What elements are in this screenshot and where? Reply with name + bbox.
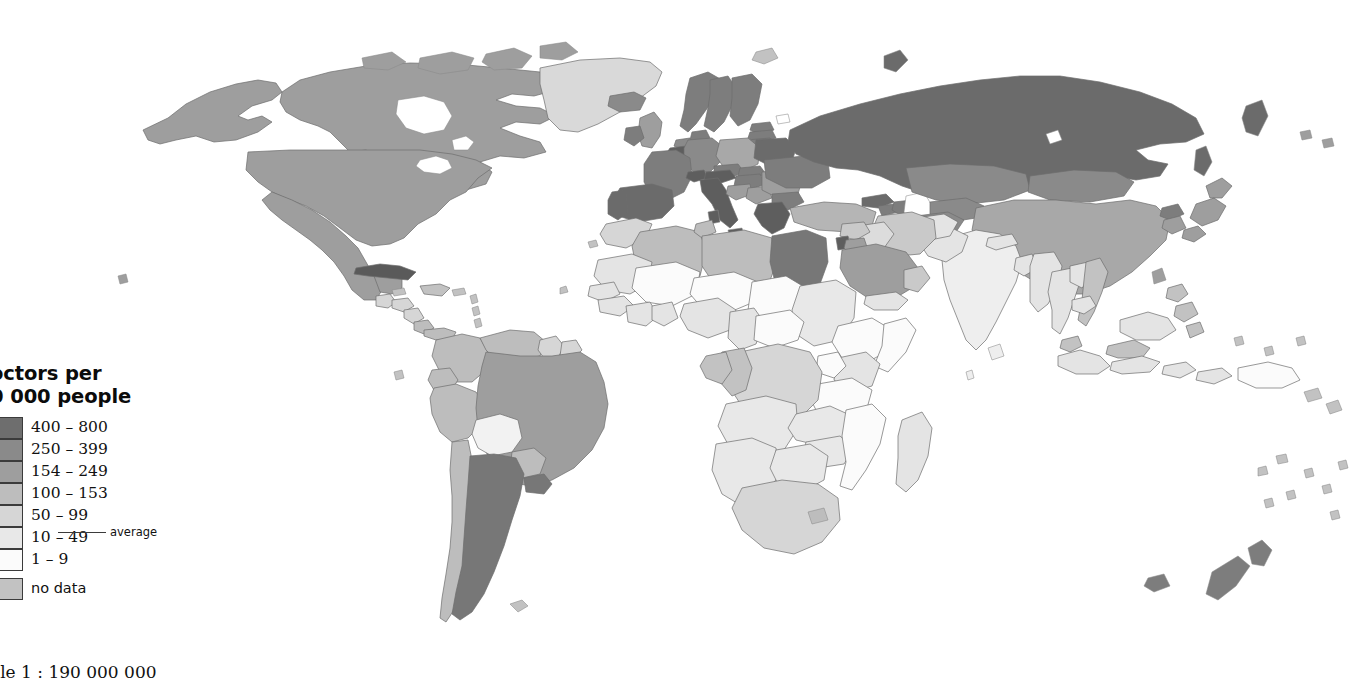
legend-item-10-49[interactable]: 10 – 49: [0, 527, 230, 549]
legend-label: 50 – 99: [31, 505, 88, 526]
legend-swatch: [0, 549, 23, 571]
legend-swatch: [0, 505, 23, 527]
legend-swatch: [0, 527, 23, 549]
country-central-african-republic: [754, 310, 804, 348]
island-puerto-rico: [452, 288, 466, 296]
legend-swatch: [0, 439, 23, 461]
island-hawaii: [118, 274, 128, 284]
legend-class-list: 400 – 800 250 – 399 154 – 249 100 – 153 …: [0, 417, 230, 600]
legend-label: 400 – 800: [31, 417, 108, 438]
island-new-zealand: [1206, 540, 1272, 600]
lake-ladoga: [776, 114, 790, 124]
country-mongolia: [1028, 170, 1134, 202]
country-japan: [1182, 178, 1232, 242]
country-finland: [730, 74, 762, 126]
island-falklands: [510, 600, 528, 612]
legend-label: no data: [31, 578, 86, 599]
legend-item-400-800[interactable]: 400 – 800: [0, 417, 230, 439]
country-nigeria: [680, 298, 736, 338]
legend-title: octors per 0 000 people: [0, 362, 190, 408]
country-ghana: [652, 302, 678, 326]
legend-swatch: [0, 461, 23, 483]
island-svalbard: [752, 48, 778, 64]
region-taiwan: [1152, 268, 1166, 284]
legend-label: 250 – 399: [31, 439, 108, 460]
island-maldives: [966, 370, 974, 380]
island-galapagos: [394, 370, 404, 380]
island-tasmania: [1144, 574, 1170, 592]
country-mali: [632, 262, 700, 306]
country-haiti-dominican-republic: [420, 284, 450, 296]
country-united-states: [143, 80, 282, 144]
country-papua-new-guinea: [1238, 362, 1300, 388]
legend-label: 10 – 49: [31, 527, 88, 548]
island-novaya-zemlya: [884, 50, 908, 72]
legend-swatch: [0, 417, 23, 439]
country-madagascar: [896, 412, 932, 492]
map-legend: octors per 0 000 people 400 – 800 250 – …: [0, 362, 230, 600]
legend-item-no-data[interactable]: no data: [0, 578, 230, 600]
legend-swatch: [0, 578, 23, 600]
legend-title-line1: octors per: [0, 362, 190, 385]
legend-item-50-99[interactable]: 50 – 99: [0, 505, 230, 527]
island-micronesia: [1234, 336, 1306, 356]
country-oman: [904, 266, 930, 292]
region-south-america: [428, 330, 608, 622]
country-greece: [754, 202, 790, 234]
map-scale-text: ale 1 : 190 000 000: [0, 662, 157, 682]
island-kamchatka: [1242, 100, 1268, 136]
legend-item-250-399[interactable]: 250 – 399: [0, 439, 230, 461]
country-sri-lanka: [988, 344, 1004, 360]
lesser-antilles: [470, 294, 482, 328]
legend-label: 100 – 153: [31, 483, 108, 504]
island-cape-verde: [560, 286, 568, 294]
country-indonesia: [1058, 350, 1232, 384]
legend-title-line2: 0 000 people: [0, 385, 190, 408]
island-aleutian: [1300, 130, 1334, 148]
island-pacific-group: [1258, 454, 1348, 508]
legend-swatch: [0, 483, 23, 505]
legend-item-1-9[interactable]: 1 – 9: [0, 549, 230, 571]
country-indonesia: [1120, 312, 1176, 340]
country-mozambique: [840, 404, 886, 490]
island-fiji: [1330, 510, 1340, 520]
legend-label: 154 – 249: [31, 461, 108, 482]
legend-item-100-153[interactable]: 100 – 153: [0, 483, 230, 505]
legend-label: 1 – 9: [31, 549, 68, 570]
region-north-america: [143, 63, 560, 340]
island-melanesia: [1304, 388, 1342, 414]
island-sakhalin: [1194, 146, 1212, 176]
legend-item-154-249[interactable]: 154 – 249: [0, 461, 230, 483]
island-canary: [588, 240, 598, 248]
